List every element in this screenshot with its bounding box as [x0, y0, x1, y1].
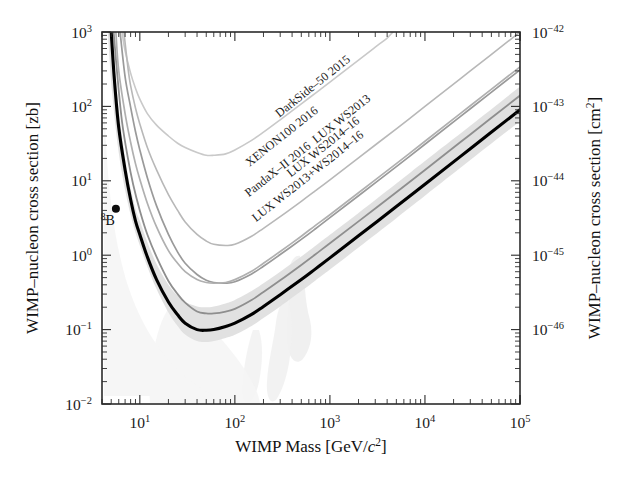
canvas-background [0, 0, 620, 477]
x-axis-title: WIMP Mass [GeV/c2] [235, 436, 387, 456]
y-left-axis-title: WIMP–nucleon cross section [zb] [23, 102, 42, 334]
figure-container: 8B DarkSide–50 2015 XENON100 2016 PandaX… [0, 0, 620, 477]
y-right-axis-title: WIMP–nucleon cross section [cm2] [584, 97, 604, 339]
b8-marker-dot [112, 205, 120, 213]
wimp-exclusion-plot: 8B DarkSide–50 2015 XENON100 2016 PandaX… [0, 0, 620, 477]
